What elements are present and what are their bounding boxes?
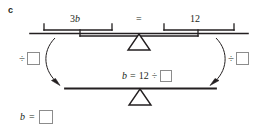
left-arrowhead	[52, 79, 61, 86]
right-divide-operation: ÷	[228, 52, 249, 65]
equation-value: 12	[139, 71, 149, 81]
bottom-fulcrum	[129, 89, 151, 105]
worksheet-problem-c: c	[0, 0, 268, 131]
part-label: c	[8, 6, 13, 15]
final-answer-box[interactable]	[39, 110, 53, 124]
right-arrowhead	[210, 79, 219, 86]
left-brace-variable: b	[75, 13, 80, 24]
right-curved-arrow	[213, 38, 225, 83]
left-brace	[44, 24, 112, 30]
left-divide-answer-box[interactable]	[27, 52, 40, 65]
bottom-balance-equation: b = 12 ÷	[122, 70, 172, 82]
final-answer-variable: b	[20, 112, 25, 122]
brace-connectors	[80, 30, 198, 36]
divide-icon: ÷	[152, 71, 158, 81]
equation-answer-box[interactable]	[160, 70, 172, 82]
divide-icon: ÷	[19, 53, 25, 64]
left-brace-label: 3b	[70, 14, 80, 24]
divide-icon: ÷	[228, 53, 234, 64]
left-curved-arrow	[46, 38, 58, 83]
left-divide-operation: ÷	[19, 52, 40, 65]
final-answer-line: b =	[20, 110, 53, 124]
right-brace-label: 12	[190, 14, 200, 24]
equation-variable: b	[122, 71, 127, 81]
top-relation-equals: =	[136, 14, 142, 24]
right-brace	[164, 24, 234, 30]
final-answer-equals: =	[29, 112, 35, 122]
right-divide-answer-box[interactable]	[236, 52, 249, 65]
equation-equals: =	[130, 71, 136, 81]
top-fulcrum	[128, 34, 150, 50]
